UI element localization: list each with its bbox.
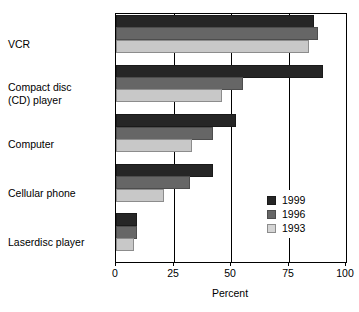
x-tick-mark-50 bbox=[230, 262, 231, 266]
category-axis: VCR Compact disc (CD) player Computer Ce… bbox=[0, 0, 113, 312]
bar-1999-4 bbox=[116, 213, 137, 226]
bar-1999-2 bbox=[116, 114, 236, 127]
bar-1996-3 bbox=[116, 176, 190, 189]
category-label-vcr: VCR bbox=[8, 38, 113, 51]
legend-label-1999: 1999 bbox=[282, 195, 305, 206]
x-tick-mark-75 bbox=[288, 262, 289, 266]
legend-swatch-1996-icon bbox=[267, 210, 276, 219]
bar-1993-0 bbox=[116, 40, 309, 53]
legend-label-1993: 1993 bbox=[282, 223, 305, 234]
x-tick-label-75: 75 bbox=[268, 268, 308, 279]
legend-swatch-1993-icon bbox=[267, 224, 276, 233]
category-label-laserdisc-player: Laserdisc player bbox=[8, 236, 113, 249]
x-tick-label-50: 50 bbox=[210, 268, 250, 279]
legend-label-1996: 1996 bbox=[282, 209, 305, 220]
bar-chart: VCR Compact disc (CD) player Computer Ce… bbox=[0, 0, 359, 312]
bar-1993-4 bbox=[116, 238, 134, 251]
bar-1996-0 bbox=[116, 27, 318, 40]
bar-1993-3 bbox=[116, 189, 164, 202]
legend: 1999 1996 1993 bbox=[264, 190, 331, 238]
category-label-cellular-phone: Cellular phone bbox=[8, 187, 113, 200]
x-axis-label: Percent bbox=[115, 287, 345, 299]
category-label-computer: Computer bbox=[8, 138, 113, 151]
bar-1993-2 bbox=[116, 139, 192, 152]
legend-item-1996: 1996 bbox=[267, 207, 327, 221]
legend-item-1999: 1999 bbox=[267, 193, 327, 207]
x-tick-label-100: 100 bbox=[325, 268, 359, 279]
legend-swatch-1999-icon bbox=[267, 196, 276, 205]
x-tick-mark-0 bbox=[115, 262, 116, 266]
bar-1993-1 bbox=[116, 89, 222, 102]
x-tick-label-0: 0 bbox=[95, 268, 135, 279]
x-tick-mark-100 bbox=[345, 262, 346, 266]
x-tick-label-25: 25 bbox=[153, 268, 193, 279]
legend-item-1993: 1993 bbox=[267, 221, 327, 235]
category-label-compact-disc-cd-player: Compact disc (CD) player bbox=[8, 81, 113, 106]
x-tick-mark-25 bbox=[173, 262, 174, 266]
